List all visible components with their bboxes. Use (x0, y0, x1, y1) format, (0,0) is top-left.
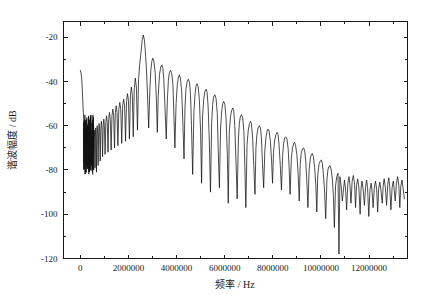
x-tick-label: 2000000 (113, 263, 145, 273)
x-tick-label: 12000000 (351, 263, 388, 273)
y-tick-label: -60 (46, 121, 58, 131)
y-axis-title: 谐波幅度 / dB (6, 110, 18, 170)
x-axis-title: 频率 / Hz (215, 278, 255, 290)
y-tick-label: -20 (46, 32, 58, 42)
near-dc-noise-band (83, 115, 93, 174)
x-tick-label: 0 (78, 263, 83, 273)
x-tick-label: 10000000 (303, 263, 340, 273)
spectrum-figure: 0200000040000006000000800000010000000120… (0, 0, 422, 299)
x-tick-label: 6000000 (209, 263, 241, 273)
y-tick-label: -80 (46, 165, 58, 175)
y-tick-label: -100 (41, 209, 58, 219)
spectrum-plot: 0200000040000006000000800000010000000120… (0, 0, 422, 299)
x-tick-label: 8000000 (257, 263, 289, 273)
y-tick-label: -120 (41, 254, 58, 264)
y-tick-label: -40 (46, 77, 58, 87)
x-tick-label: 4000000 (161, 263, 193, 273)
